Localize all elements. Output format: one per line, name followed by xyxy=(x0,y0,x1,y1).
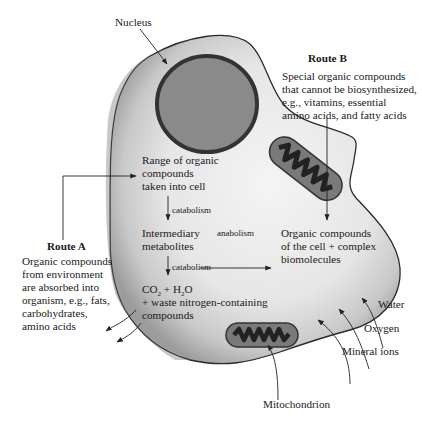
route-a-line: organism, e.g., fats, xyxy=(22,294,110,307)
water-label: Water xyxy=(378,298,404,311)
mitochondrion-label: Mitochondrion xyxy=(263,398,330,411)
route-b-line: amino acids, and fatty acids xyxy=(282,109,407,122)
h-text: + H xyxy=(161,283,181,295)
route-b-line: e.g., vitamins, essential xyxy=(282,96,386,109)
nucleus-label: Nucleus xyxy=(115,16,152,29)
route-a-title: Route A xyxy=(47,240,86,253)
intermediate-line: Intermediary xyxy=(142,227,200,240)
mineral-ions-label: Mineral ions xyxy=(342,345,399,358)
route-a-line: are absorbed into xyxy=(22,281,99,294)
catabolism-label-2: catabolism xyxy=(172,261,211,274)
route-a-line: carbohydrates, xyxy=(22,307,88,320)
cell-diagram-graphic xyxy=(0,0,422,421)
oxygen-label: Oxygen xyxy=(364,322,399,335)
catabolism-label-1: catabolism xyxy=(172,204,211,217)
intake-line: Range of organic xyxy=(142,154,219,167)
mitochondrion-lower xyxy=(226,323,298,347)
intake-line: compounds xyxy=(142,167,194,180)
route-b-line: Special organic compounds xyxy=(282,70,405,83)
route-a-line: amino acids xyxy=(22,320,76,333)
route-a-line: Organic compounds xyxy=(22,255,112,268)
biosynthesis-line: biomolecules xyxy=(281,253,341,266)
o-text: O xyxy=(185,283,193,295)
route-a-line: from environment xyxy=(22,268,103,281)
intake-line: taken into cell xyxy=(142,180,205,193)
nucleus xyxy=(157,56,257,152)
waste-line: compounds xyxy=(142,309,194,322)
waste-line: + waste nitrogen-containing xyxy=(142,296,268,309)
biosynthesis-line: of the cell + complex xyxy=(281,240,376,253)
route-b-line: that cannot be biosynthesized, xyxy=(282,83,417,96)
route-b-title: Route B xyxy=(308,52,347,65)
biosynthesis-line: Organic compounds xyxy=(281,227,371,240)
co-text: CO xyxy=(142,283,158,295)
anabolism-label: anabolism xyxy=(217,227,254,240)
intermediate-line: metabolites xyxy=(142,240,194,253)
